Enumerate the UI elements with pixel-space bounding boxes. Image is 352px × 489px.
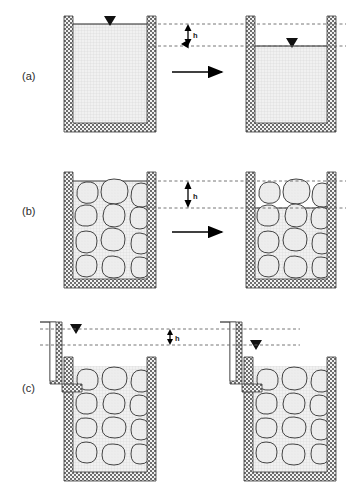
h-arrow-head-up	[185, 24, 192, 31]
rock	[101, 228, 125, 251]
rock	[76, 231, 97, 253]
h-arrow-head-down	[185, 39, 192, 46]
panel-c: h	[40, 322, 336, 481]
rock	[102, 256, 125, 278]
rock	[101, 179, 128, 204]
rock	[284, 256, 307, 278]
rock	[102, 367, 127, 390]
rock	[76, 418, 97, 438]
rock	[258, 255, 279, 277]
rock	[283, 228, 307, 251]
panel-label-a: (a)	[22, 70, 35, 82]
rock	[76, 393, 97, 414]
panel-b-right-container	[246, 172, 336, 288]
h-label: h	[193, 192, 198, 201]
panel-c-left-container	[40, 322, 156, 481]
water-body	[255, 46, 327, 123]
panel-a-left-container	[64, 16, 156, 132]
rock	[283, 393, 305, 414]
rock	[76, 255, 97, 277]
figure-canvas: (a) (b) (c)	[0, 0, 352, 489]
rock	[77, 182, 98, 203]
h-arrow-head-down	[185, 200, 192, 208]
h-arrow-head-up	[185, 181, 192, 189]
panel-b: h	[64, 172, 346, 288]
rock	[76, 442, 97, 463]
panel-c-right-container	[220, 322, 336, 481]
rock	[256, 418, 277, 438]
rock	[130, 395, 149, 416]
rock	[282, 417, 306, 438]
rock	[259, 182, 280, 203]
h-arrow-head-down	[167, 339, 173, 345]
water-body	[73, 24, 147, 123]
rock	[282, 444, 305, 465]
panel-b-left-container	[64, 172, 156, 288]
rock	[258, 231, 279, 253]
panel-a-right-container	[246, 16, 336, 132]
panel-label-b: (b)	[22, 205, 35, 217]
rock	[282, 367, 307, 390]
rock	[256, 442, 277, 463]
rock	[75, 205, 97, 226]
rock	[283, 179, 310, 204]
panel-label-c: (c)	[22, 382, 35, 394]
rock	[102, 417, 126, 438]
h-label: h	[175, 334, 180, 343]
rock	[103, 204, 125, 227]
rock	[102, 444, 125, 465]
rock	[103, 393, 125, 414]
h-arrow-head-up	[167, 329, 173, 335]
panel-a: h	[64, 16, 346, 132]
diagram-svg: h	[0, 0, 352, 489]
h-label: h	[193, 31, 198, 40]
standpipe-bore	[50, 322, 56, 381]
rock	[256, 393, 277, 414]
rock	[130, 207, 149, 229]
standpipe-bore	[230, 322, 236, 381]
rock	[310, 395, 329, 416]
rock	[285, 204, 307, 227]
